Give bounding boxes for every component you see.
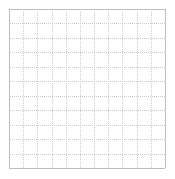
grid-line-vertical xyxy=(94,9,95,168)
grid-line-vertical xyxy=(66,9,67,168)
grid-border-vertical xyxy=(165,9,166,168)
grid-line-horizontal xyxy=(9,96,165,97)
grid-border-horizontal xyxy=(9,9,165,10)
grid-line-horizontal xyxy=(9,81,165,82)
grid-line-horizontal xyxy=(9,154,165,155)
grid-line-vertical xyxy=(23,9,24,168)
grid-area xyxy=(9,9,165,168)
grid-line-horizontal xyxy=(9,23,165,24)
grid-line-vertical xyxy=(122,9,123,168)
grid-line-horizontal xyxy=(9,110,165,111)
grid-line-horizontal xyxy=(9,67,165,68)
grid-line-vertical xyxy=(52,9,53,168)
grid-line-horizontal xyxy=(9,125,165,126)
grid-line-horizontal xyxy=(9,38,165,39)
grid-line-vertical xyxy=(151,9,152,168)
grid-line-vertical xyxy=(108,9,109,168)
grid-line-horizontal xyxy=(9,139,165,140)
grid-canvas xyxy=(0,0,175,179)
grid-line-vertical xyxy=(37,9,38,168)
grid-line-vertical xyxy=(137,9,138,168)
grid-border-vertical xyxy=(9,9,10,168)
grid-border-horizontal xyxy=(9,168,165,169)
grid-line-vertical xyxy=(80,9,81,168)
grid-line-horizontal xyxy=(9,52,165,53)
